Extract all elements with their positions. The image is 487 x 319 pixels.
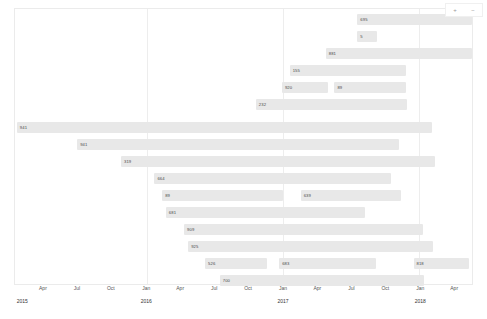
gantt-bar[interactable]: 941 — [77, 139, 399, 150]
gantt-bar-label: 941 — [20, 122, 27, 133]
gantt-bar[interactable]: 526 — [205, 258, 267, 269]
gantt-row: 695 — [15, 14, 472, 25]
gantt-bar-label: 319 — [124, 156, 131, 167]
gantt-bar-label: 232 — [259, 99, 266, 110]
gantt-row: 319 — [15, 156, 472, 167]
x-axis: AprJulOctJanAprJulOctJanAprJulOctJanApr2… — [14, 285, 473, 319]
zoom-controls[interactable]: + − — [445, 3, 483, 17]
zoom-out-button[interactable]: − — [469, 7, 477, 13]
gantt-bar-label: 89 — [337, 82, 342, 93]
gantt-bar[interactable]: 681 — [166, 207, 365, 218]
x-axis-tick-label: Apr — [314, 285, 322, 291]
gantt-bar-label: 681 — [169, 207, 176, 218]
gantt-bar[interactable]: 5 — [357, 31, 377, 42]
x-axis-tick-label: Jul — [74, 285, 80, 291]
gantt-bar[interactable]: 89 — [162, 190, 283, 201]
gantt-bar-label: 683 — [282, 258, 289, 269]
gantt-bar-label: 155 — [293, 65, 300, 76]
x-axis-year-label: 2017 — [277, 298, 288, 304]
gantt-row: 941 — [15, 122, 472, 133]
gantt-bar[interactable]: 941 — [17, 122, 432, 133]
x-axis-tick-label: Oct — [381, 285, 389, 291]
x-axis-year-label: 2015 — [17, 298, 28, 304]
gantt-row: 664 — [15, 173, 472, 184]
x-axis-tick-label: Apr — [39, 285, 47, 291]
gantt-bar-label: 695 — [360, 14, 367, 25]
gantt-row: 941 — [15, 139, 472, 150]
gantt-bar[interactable]: 925 — [188, 241, 432, 252]
gantt-bar[interactable]: 683 — [279, 258, 376, 269]
x-axis-tick-label: Jan — [279, 285, 287, 291]
gantt-bar[interactable]: 319 — [121, 156, 435, 167]
gantt-bar-label: 5 — [360, 31, 362, 42]
gantt-bar-label: 89 — [165, 190, 170, 201]
gantt-bar[interactable]: 639 — [301, 190, 402, 201]
gantt-bar[interactable]: 920 — [282, 82, 328, 93]
gantt-row: 5 — [15, 31, 472, 42]
gantt-bar[interactable]: 664 — [154, 173, 390, 184]
gantt-bar[interactable]: 881 — [326, 48, 472, 59]
x-axis-year-label: 2016 — [141, 298, 152, 304]
gantt-bar-label: 941 — [80, 139, 87, 150]
gantt-row: 909 — [15, 224, 472, 235]
gantt-chart: 6955881155920892329419413196648963968190… — [0, 0, 487, 319]
x-axis-tick-label: Jul — [211, 285, 217, 291]
gantt-row: 89639 — [15, 190, 472, 201]
x-axis-tick-label: Jan — [142, 285, 150, 291]
gantt-bar-label: 664 — [157, 173, 164, 184]
gantt-bar[interactable]: 89 — [334, 82, 405, 93]
gantt-row: 92089 — [15, 82, 472, 93]
gantt-bar-label: 881 — [329, 48, 336, 59]
x-axis-tick-label: Jan — [416, 285, 424, 291]
gantt-row: 881 — [15, 48, 472, 59]
x-axis-tick-label: Apr — [176, 285, 184, 291]
gantt-bar-label: 639 — [304, 190, 311, 201]
gantt-row: 232 — [15, 99, 472, 110]
x-axis-tick-label: Oct — [107, 285, 115, 291]
gantt-bar-label: 526 — [208, 258, 215, 269]
gantt-bar[interactable]: 818 — [414, 258, 470, 269]
plot-area[interactable]: 6955881155920892329419413196648963968190… — [14, 8, 473, 285]
x-axis-tick-label: Apr — [450, 285, 458, 291]
gantt-row: 526683818 — [15, 258, 472, 269]
gantt-bar[interactable]: 155 — [290, 65, 407, 76]
gantt-bar-label: 818 — [417, 258, 424, 269]
gantt-row: 681 — [15, 207, 472, 218]
gantt-bar-label: 920 — [285, 82, 292, 93]
x-axis-year-label: 2018 — [415, 298, 426, 304]
zoom-in-button[interactable]: + — [451, 7, 459, 13]
x-axis-tick-label: Jul — [348, 285, 354, 291]
gantt-bar-label: 925 — [191, 241, 198, 252]
gantt-row: 155 — [15, 65, 472, 76]
x-axis-tick-label: Oct — [244, 285, 252, 291]
gantt-bar-label: 909 — [187, 224, 194, 235]
gantt-row: 925 — [15, 241, 472, 252]
gantt-bar[interactable]: 232 — [256, 99, 407, 110]
gantt-bar[interactable]: 909 — [184, 224, 423, 235]
